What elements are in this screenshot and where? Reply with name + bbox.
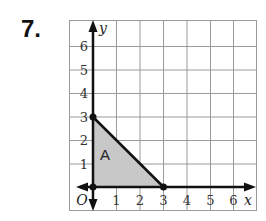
vertex-origin [90, 184, 97, 191]
x-tick-5: 5 [206, 193, 214, 208]
coordinate-plane: 1 2 3 4 5 6 1 2 3 4 5 6 x y O A [0, 0, 266, 221]
x-tick-6: 6 [229, 193, 237, 208]
vertex-0-3 [90, 114, 97, 121]
y-tick-3: 3 [80, 110, 88, 125]
y-tick-2: 2 [80, 133, 88, 148]
x-tick-4: 4 [183, 193, 191, 208]
y-tick-4: 4 [80, 86, 88, 101]
origin-label: O [76, 192, 88, 208]
y-tick-5: 5 [80, 63, 88, 78]
y-axis-arrow-up-icon [89, 20, 98, 32]
y-tick-6: 6 [80, 39, 88, 54]
x-axis-arrow-left-icon [76, 183, 88, 192]
x-tick-1: 1 [112, 193, 120, 208]
y-axis-arrow-down-icon [89, 199, 98, 211]
x-axis-arrow-right-icon [244, 183, 256, 192]
region-label: A [100, 146, 110, 163]
y-tick-1: 1 [80, 157, 88, 172]
vertex-3-0 [160, 184, 167, 191]
x-tick-2: 2 [136, 193, 144, 208]
x-tick-3: 3 [159, 193, 167, 208]
y-axis-label: y [98, 20, 108, 36]
x-axis-label: x [244, 192, 252, 208]
